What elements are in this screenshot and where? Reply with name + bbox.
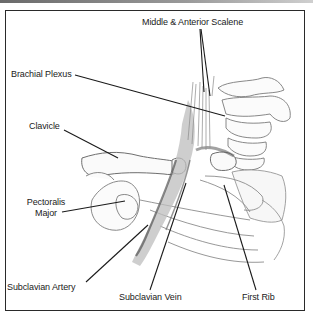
- clavicle-bone: [82, 152, 237, 176]
- leader-clavicle: [64, 130, 118, 158]
- label-pectoralis-line2: Major: [26, 208, 66, 219]
- label-subclavian-artery: Subclavian Artery: [7, 282, 75, 293]
- label-subclavian-vein: Subclavian Vein: [119, 292, 182, 303]
- thoracic-spine: [232, 170, 286, 260]
- neurovascular-bundle: [132, 100, 234, 266]
- anatomy-illustration: [0, 0, 313, 320]
- shoulder-scapula: [86, 173, 140, 231]
- label-pectoralis-major: Pectoralis Major: [26, 197, 66, 219]
- label-brachial-plexus: Brachial Plexus: [11, 69, 72, 80]
- label-clavicle: Clavicle: [29, 121, 60, 132]
- label-middle-anterior-scalene: Middle & Anterior Scalene: [142, 17, 243, 28]
- label-pectoralis-line1: Pectoralis: [26, 197, 66, 208]
- label-first-rib: First Rib: [242, 292, 275, 303]
